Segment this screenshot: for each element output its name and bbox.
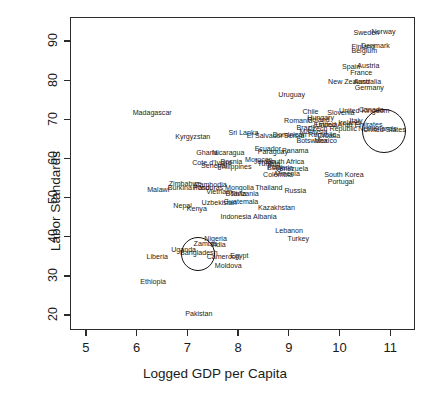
- point-label: Germany: [355, 85, 384, 92]
- x-tick-label: 5: [82, 340, 89, 355]
- point-label: Russia: [284, 189, 306, 196]
- point-label: Madagascar: [133, 110, 172, 117]
- point-label: Liberia: [147, 254, 168, 261]
- x-axis-title: Logged GDP per Capita: [0, 366, 430, 381]
- y-tick-label: 80: [46, 73, 60, 87]
- x-tick-6: 6: [136, 330, 137, 336]
- point-label: Lebanon: [275, 228, 303, 235]
- y-tick-label: 60: [46, 151, 60, 165]
- x-tick-5: 5: [85, 330, 86, 336]
- point-label: Kyrgyzstan: [175, 135, 210, 142]
- x-tick-9: 9: [288, 330, 289, 336]
- y-tick-label: 70: [46, 112, 60, 126]
- point-label: Albania: [253, 214, 277, 221]
- y-tick-label: 50: [46, 190, 60, 204]
- y-tick-label: 90: [46, 33, 60, 47]
- point-label: Norway: [371, 29, 395, 36]
- point-label: El Salvador: [247, 133, 283, 140]
- x-tick-mark: [339, 330, 340, 336]
- x-tick-label: 11: [384, 340, 398, 355]
- highlight-circle-united-states: [362, 109, 406, 153]
- y-tick-label: 30: [46, 268, 60, 282]
- x-tick-mark: [288, 330, 289, 336]
- point-label: Bosnia: [220, 160, 242, 167]
- x-tick-10: 10: [339, 330, 340, 336]
- plot-area: MadagascarKyrgyzstanGhanaNicaraguaSri La…: [70, 17, 415, 330]
- x-tick-mark: [136, 330, 137, 336]
- x-tick-mark: [390, 330, 391, 336]
- x-tick-mark: [85, 330, 86, 336]
- point-label: Egypt: [230, 254, 248, 261]
- point-label: Ethiopia: [140, 280, 166, 287]
- point-label: Portugal: [328, 180, 354, 187]
- x-tick-label: 7: [184, 340, 191, 355]
- x-tick-11: 11: [390, 330, 391, 336]
- x-tick-label: 6: [133, 340, 140, 355]
- x-tick-7: 7: [187, 330, 188, 336]
- point-label: Ireland: [338, 120, 360, 127]
- point-label: Kazakhstan: [258, 205, 295, 212]
- x-tick-label: 8: [234, 340, 241, 355]
- point-label: Turkey: [288, 237, 309, 244]
- point-label: Pakistan: [185, 311, 212, 318]
- point-label: Belgium: [351, 48, 377, 55]
- y-tick-label: 40: [46, 229, 60, 243]
- x-tick-mark: [187, 330, 188, 336]
- point-label: Thailand: [255, 186, 282, 193]
- point-label: Indonesia: [220, 214, 251, 221]
- x-tick-label: 10: [332, 340, 346, 355]
- point-label: Moldova: [215, 263, 242, 270]
- scatter-plot-figure: Labor Standards Logged GDP per Capita 20…: [0, 0, 430, 401]
- point-label: Nicaragua: [212, 150, 244, 157]
- point-label: Panama: [282, 149, 308, 156]
- x-tick-label: 9: [285, 340, 292, 355]
- point-label: France: [350, 70, 372, 77]
- highlight-circle-bangladesh: [181, 237, 215, 271]
- x-tick-8: 8: [237, 330, 238, 336]
- point-label: Mexico: [314, 139, 336, 146]
- point-label: Malawi: [147, 187, 169, 194]
- point-label: Uruguay: [278, 93, 305, 100]
- x-tick-mark: [237, 330, 238, 336]
- point-label: Guatemala: [224, 200, 259, 207]
- point-label: Armenia: [273, 171, 299, 178]
- y-tick-label: 20: [46, 307, 60, 321]
